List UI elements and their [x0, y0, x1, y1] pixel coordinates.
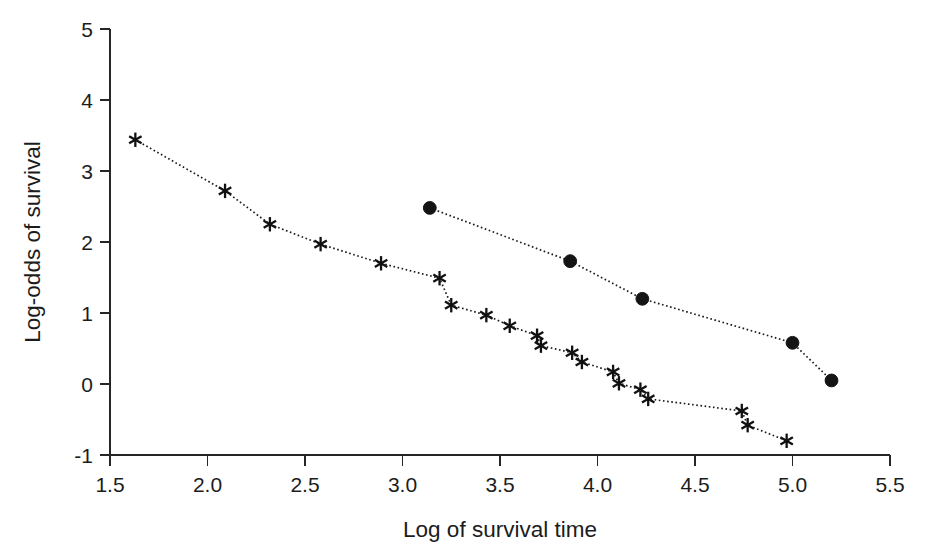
x-tick-label: 4.0 — [583, 473, 612, 496]
data-point-asterisk — [314, 237, 326, 251]
data-point-asterisk — [264, 217, 276, 231]
data-point-asterisk — [736, 404, 748, 418]
y-tick-label: 5 — [81, 18, 93, 41]
data-point-circle — [423, 202, 436, 215]
data-point-asterisk — [480, 308, 492, 322]
chart-plot-area: 543210-1 1.52.02.53.03.54.04.55.05.5 Log… — [0, 0, 943, 560]
x-tick-label: 3.5 — [485, 473, 514, 496]
data-point-asterisk — [129, 133, 141, 147]
x-tick-label: 2.0 — [193, 473, 222, 496]
data-point-asterisk — [613, 376, 625, 390]
data-point-asterisk — [642, 392, 654, 406]
data-point-circle — [825, 374, 838, 387]
data-point-circle — [636, 292, 649, 305]
series-asterisk-series — [129, 133, 793, 448]
x-tick-label: 5.0 — [778, 473, 807, 496]
data-point-asterisk — [504, 319, 516, 333]
y-tick-label: 2 — [81, 231, 93, 254]
y-tick-group: 543210-1 — [74, 18, 110, 467]
series-connector-line — [135, 140, 786, 441]
x-tick-label: 5.5 — [875, 473, 904, 496]
y-tick-label: 1 — [81, 302, 93, 325]
chart-figure: 543210-1 1.52.02.53.03.54.04.55.05.5 Log… — [0, 0, 943, 560]
data-point-asterisk — [445, 298, 457, 312]
x-tick-group: 1.52.02.53.03.54.04.55.05.5 — [95, 455, 904, 496]
data-point-asterisk — [607, 365, 619, 379]
data-point-asterisk — [375, 256, 387, 270]
axis-group — [110, 29, 890, 455]
series-circle-series — [423, 202, 837, 387]
data-point-asterisk — [219, 184, 231, 198]
x-tick-label: 4.5 — [680, 473, 709, 496]
x-tick-label: 2.5 — [290, 473, 319, 496]
data-point-asterisk — [433, 271, 445, 285]
data-point-asterisk — [741, 418, 753, 432]
y-tick-label: -1 — [74, 444, 93, 467]
x-tick-label: 1.5 — [95, 473, 124, 496]
series-connector-line — [430, 208, 832, 381]
x-axis-title: Log of survival time — [403, 517, 597, 542]
y-axis-title: Log-odds of survival — [20, 141, 45, 342]
data-point-circle — [564, 255, 577, 268]
data-point-circle — [786, 336, 799, 349]
y-tick-label: 4 — [81, 89, 93, 112]
y-tick-label: 3 — [81, 160, 93, 183]
series-layer — [129, 133, 838, 448]
x-tick-label: 3.0 — [388, 473, 417, 496]
data-point-asterisk — [780, 434, 792, 448]
y-tick-label: 0 — [81, 373, 93, 396]
